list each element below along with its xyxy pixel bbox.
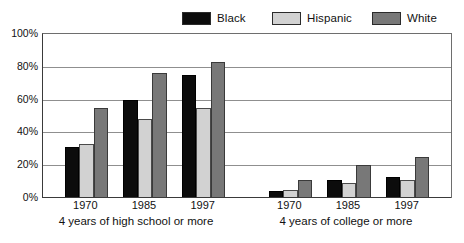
bar-black-1997-panel2 xyxy=(386,177,401,198)
bar-white-1997-panel1 xyxy=(211,62,226,198)
legend-label-hispanic: Hispanic xyxy=(307,12,352,25)
legend-label-white: White xyxy=(407,12,437,25)
x-axis-tick-labels: 197019851997197019851997 xyxy=(42,199,450,213)
panel-caption-high-school: 4 years of high school or more xyxy=(28,214,244,228)
bar-white-1985-panel1 xyxy=(152,73,167,198)
bar-white-1970-panel2 xyxy=(298,180,313,198)
bar-white-1985-panel2 xyxy=(356,165,371,198)
y-tick-20: 20% xyxy=(0,159,38,169)
legend-item-white: White xyxy=(372,10,437,26)
x-tick-label-1970-panel2: 1970 xyxy=(267,199,311,212)
y-tick-100: 100% xyxy=(0,28,38,38)
bar-hispanic-1970-panel1 xyxy=(79,144,94,198)
bar-black-1970-panel1 xyxy=(65,147,80,198)
legend-label-black: Black xyxy=(217,12,246,25)
plot-area xyxy=(42,33,452,198)
bar-hispanic-1985-panel2 xyxy=(342,183,357,198)
legend-swatch-white-icon xyxy=(372,12,401,25)
y-tick-40: 40% xyxy=(0,126,38,136)
legend-swatch-black-icon xyxy=(182,12,211,25)
legend-swatch-hispanic-icon xyxy=(272,12,301,25)
bars-container xyxy=(43,34,451,198)
bar-black-1985-panel2 xyxy=(327,180,342,198)
bar-black-1997-panel1 xyxy=(182,75,197,198)
panel-caption-college: 4 years of college or more xyxy=(238,214,454,228)
y-tick-80: 80% xyxy=(0,61,38,71)
y-tick-60: 60% xyxy=(0,94,38,104)
x-tick-label-1985-panel2: 1985 xyxy=(326,199,370,212)
x-tick-label-1985-panel1: 1985 xyxy=(122,199,166,212)
legend-item-black: Black xyxy=(182,10,246,26)
bar-black-1985-panel1 xyxy=(123,100,138,198)
legend-item-hispanic: Hispanic xyxy=(272,10,352,26)
bar-white-1997-panel2 xyxy=(415,157,430,198)
x-tick-label-1970-panel1: 1970 xyxy=(63,199,107,212)
bar-hispanic-1985-panel1 xyxy=(138,119,153,198)
bar-hispanic-1997-panel1 xyxy=(196,108,211,198)
x-tick-label-1997-panel2: 1997 xyxy=(385,199,429,212)
y-tick-0: 0% xyxy=(0,192,38,202)
chart-legend: Black Hispanic White xyxy=(0,0,464,30)
y-axis-tick-labels: 0% 20% 40% 60% 80% 100% xyxy=(0,33,38,197)
x-tick-label-1997-panel1: 1997 xyxy=(181,199,225,212)
x-axis-line xyxy=(42,197,451,198)
bar-white-1970-panel1 xyxy=(94,108,109,198)
bar-hispanic-1997-panel2 xyxy=(400,180,415,198)
educational-attainment-bar-chart: Black Hispanic White 0% 20% 40% 60% 80% … xyxy=(0,0,464,243)
